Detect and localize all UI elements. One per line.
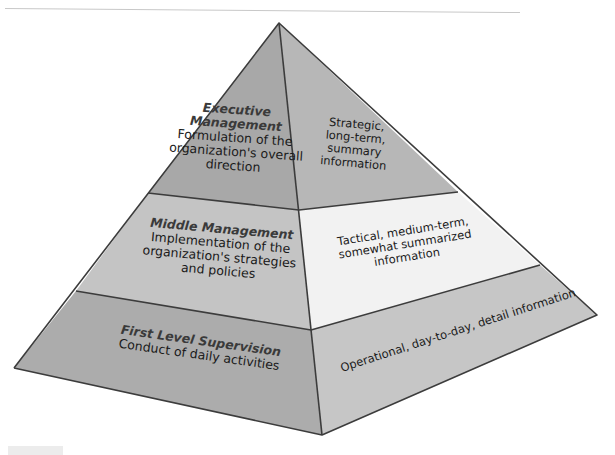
corner-placeholder-bar (8, 446, 63, 455)
pyramid-diagram (0, 0, 615, 455)
executive-information-label: Strategic, long-term, summary informatio… (303, 114, 407, 174)
executive-management-label: Executive Management Formulation of the … (168, 99, 303, 178)
executive-right-face (279, 23, 458, 210)
